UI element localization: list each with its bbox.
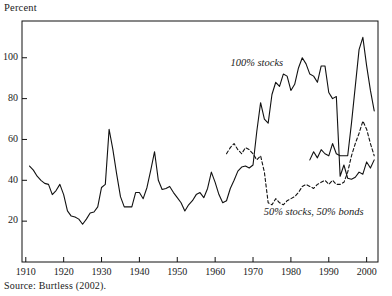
y-tick-label: 40 (8, 174, 18, 185)
chart-figure: Percent 20406080100191019201930194019501… (0, 0, 392, 296)
series-layer (30, 37, 375, 224)
series-annotation-label: 50% stocks, 50% bonds (264, 206, 364, 217)
annotation-layer: 100% stocks50% stocks, 50% bonds (230, 57, 363, 217)
y-tick-label: 100 (3, 51, 18, 62)
line-chart-plot: 2040608010019101920193019401950196019701… (0, 0, 392, 296)
x-tick-label: 1960 (205, 266, 225, 277)
y-tick-label: 80 (8, 92, 18, 103)
y-tick-label: 60 (8, 133, 18, 144)
x-tick-label: 1990 (319, 266, 339, 277)
series-line (227, 121, 375, 205)
x-tick-label: 1980 (281, 266, 301, 277)
axes-layer: 2040608010019101920193019401950196019701… (3, 21, 378, 277)
plot-frame (22, 21, 378, 262)
x-tick-label: 1910 (16, 266, 36, 277)
series-annotation-label: 100% stocks (230, 57, 283, 68)
x-tick-label: 1970 (243, 266, 263, 277)
x-tick-label: 1920 (54, 266, 74, 277)
x-tick-label: 2000 (357, 266, 377, 277)
y-tick-label: 20 (8, 214, 18, 225)
series-line (310, 37, 374, 160)
x-tick-label: 1950 (167, 266, 187, 277)
source-note: Source: Burtless (2002). (4, 280, 106, 291)
x-tick-label: 1930 (92, 266, 112, 277)
x-tick-label: 1940 (129, 266, 149, 277)
series-line (30, 58, 375, 224)
